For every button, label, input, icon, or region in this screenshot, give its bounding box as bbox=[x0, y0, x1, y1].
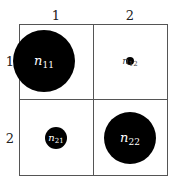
row-label-1: 1 bbox=[6, 54, 14, 69]
cell-n22: n22 bbox=[104, 112, 156, 164]
cell-n11: n11 bbox=[13, 30, 75, 92]
cell-n21: n21 bbox=[45, 127, 67, 149]
row-label-2: 2 bbox=[6, 131, 14, 146]
balloon-plot: 1 2 1 2 n11 n12 n21 n22 bbox=[0, 0, 176, 185]
column-label-1: 1 bbox=[52, 8, 60, 23]
column-label-2: 2 bbox=[126, 8, 134, 23]
cell-n12: n12 bbox=[122, 55, 137, 68]
cell-label-n12: n12 bbox=[122, 55, 137, 68]
